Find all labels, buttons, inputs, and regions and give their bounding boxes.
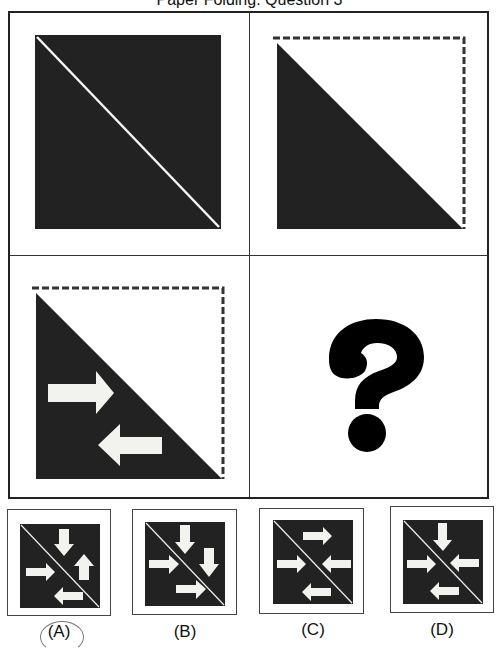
option-d[interactable] [390, 506, 494, 613]
option-c[interactable] [259, 508, 364, 614]
option-b[interactable] [132, 509, 237, 615]
panel-unfolded-square [35, 35, 221, 229]
grid-divider-horizontal [10, 255, 487, 256]
question-grid [8, 11, 489, 499]
option-b-label[interactable]: (B) [155, 622, 215, 642]
selection-circle-mark [40, 621, 84, 652]
option-a[interactable] [7, 509, 111, 616]
panel-punched-triangle [32, 285, 227, 481]
option-d-label[interactable]: (D) [412, 620, 472, 640]
question-mark-icon [321, 317, 427, 457]
page-title: Paper Folding: Question 3 [0, 0, 499, 9]
option-c-label[interactable]: (C) [283, 620, 343, 640]
panel-folded-triangle [273, 35, 468, 231]
